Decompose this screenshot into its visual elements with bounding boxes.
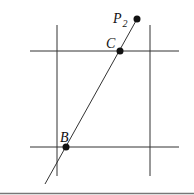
label-c: C [106, 36, 116, 51]
label-p2-main: P [112, 11, 122, 26]
label-p2: P2 [112, 11, 128, 29]
diagram-canvas: P2 C B [0, 0, 194, 195]
label-b: B [60, 130, 69, 145]
diagram-svg: P2 C B [0, 0, 194, 195]
point-c [117, 48, 124, 55]
label-p2-subscript: 2 [123, 18, 128, 29]
diagonal-segment [45, 19, 137, 184]
point-p2 [134, 16, 141, 23]
